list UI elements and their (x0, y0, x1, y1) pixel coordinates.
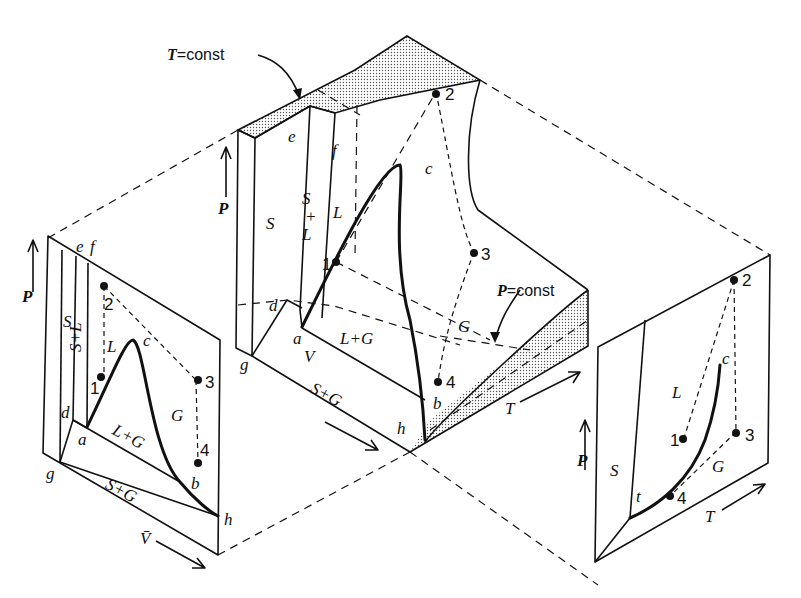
projection-lines (48, 80, 770, 585)
pt-projection (580, 255, 770, 562)
t-const-pointer-icon (258, 55, 300, 98)
pv-state-4 (194, 459, 202, 467)
pv-state-3 (194, 376, 202, 384)
pv-point-b: b (191, 475, 200, 492)
surface-state-2-label: 2 (445, 86, 454, 103)
surface-region-sl-s: S (302, 190, 311, 207)
surface-state-4-label: 4 (446, 374, 455, 391)
pv-point-h: h (224, 511, 233, 528)
surface-point-b: b (433, 395, 442, 412)
surface-region-g: G (458, 318, 470, 335)
pv-point-a: a (78, 431, 87, 448)
pv-point-d: d (61, 404, 70, 421)
pv-point-f: f (90, 238, 95, 255)
surface-point-e: e (288, 128, 296, 145)
pv-projection (28, 236, 220, 568)
surface-v-arrow-icon (325, 422, 378, 450)
pv-region-l: L (107, 338, 116, 355)
surface-v-axis-label: V (304, 348, 314, 365)
surface-p-axis-label: P (218, 200, 228, 217)
pt-state-1-label: 1 (670, 432, 679, 449)
pt-state-4-label: 4 (677, 490, 686, 507)
surface-state-3 (470, 249, 478, 257)
pv-state-1-label: 1 (90, 380, 99, 397)
surface-p-arrow-icon (221, 147, 231, 197)
pv-point-g: g (46, 465, 55, 482)
pt-region-s: S (610, 462, 619, 479)
surface-point-f: f (332, 142, 337, 159)
pt-point-c: c (722, 350, 730, 367)
pt-state-4 (666, 492, 674, 500)
pt-p-axis-label: P (577, 452, 587, 469)
surface-region-l: L (333, 204, 342, 221)
surface-region-s: S (266, 215, 275, 232)
p-const-label: P=const (497, 283, 554, 299)
pv-region-g: G (171, 407, 183, 424)
surface-point-h: h (397, 420, 406, 437)
pt-state-3-label: 3 (745, 427, 754, 444)
pv-state-3-label: 3 (205, 374, 214, 391)
pt-state-2 (730, 276, 738, 284)
pt-t-arrow-icon (722, 484, 765, 510)
pt-state-3 (732, 429, 740, 437)
pv-state-2 (100, 282, 108, 290)
pv-point-e: e (76, 238, 84, 255)
surface-region-sl-plus: + (305, 208, 316, 225)
pv-p-axis-label: P (22, 288, 32, 305)
diagram-graphics (0, 0, 801, 598)
pv-v-arrow-icon (156, 541, 205, 568)
surface-state-1 (332, 258, 340, 266)
surface-region-sl-l: L (302, 226, 311, 243)
surface-point-a: a (293, 330, 302, 347)
pv-state-4-label: 4 (200, 442, 209, 459)
pt-region-l: L (672, 384, 681, 401)
pv-p-arrow-icon (28, 240, 38, 292)
surface-point-d: d (269, 297, 278, 314)
pt-point-t: t (636, 488, 641, 505)
surface-state-3-label: 3 (481, 246, 490, 263)
pv-region-sl: S+L (67, 323, 84, 352)
pvt-surface (221, 36, 588, 452)
pvt-phase-diagram: T=const P=const P V T e f c d a g h b S … (0, 0, 801, 598)
pt-region-g: G (712, 458, 724, 475)
surface-point-c: c (425, 160, 433, 177)
surface-point-g: g (240, 356, 249, 373)
surface-state-1-label: 1 (322, 256, 331, 273)
surface-region-lg: L+G (340, 330, 373, 347)
surface-state-2 (432, 90, 440, 98)
t-const-label: T=const (167, 47, 224, 63)
pv-v-axis-label: V̄ (140, 530, 150, 547)
pt-state-2-label: 2 (742, 272, 751, 289)
surface-state-4 (434, 378, 442, 386)
pt-state-1 (679, 435, 687, 443)
pv-state-2-label: 2 (104, 296, 113, 313)
surface-t-axis-label: T (505, 400, 514, 417)
pt-t-axis-label: T (705, 508, 714, 525)
pv-point-c: c (143, 332, 151, 349)
